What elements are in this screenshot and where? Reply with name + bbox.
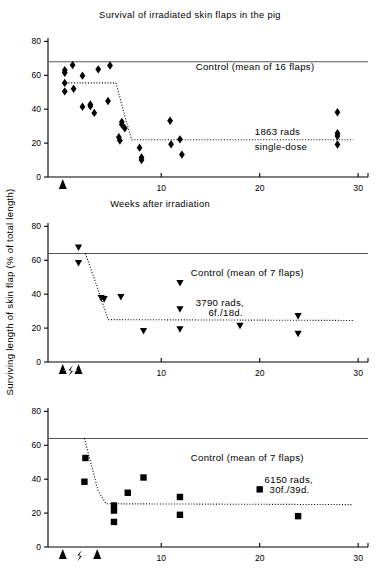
figure-container: Survival of irradiated skin flaps in the… (0, 0, 380, 584)
annotation-label: Control (mean of 7 flaps) (191, 267, 304, 278)
y-axis-tick-label: 20 (31, 138, 41, 148)
page-title: Survival of irradiated skin flaps in the… (99, 10, 281, 20)
data-point-square (81, 479, 87, 485)
y-axis-tick-label: 80 (31, 406, 41, 416)
data-point-square (177, 494, 183, 500)
data-point-square (82, 455, 88, 461)
y-axis-tick-label: 0 (36, 172, 41, 182)
annotation-label: Control (mean of 16 flaps) (196, 61, 315, 72)
data-point-square (177, 512, 183, 518)
annotation-label: single-dose (255, 141, 307, 152)
annotation-label: 6f./18d. (208, 307, 242, 318)
figure-svg: Survival of irradiated skin flaps in the… (0, 0, 380, 584)
y-axis-tick-label: 40 (31, 104, 41, 114)
data-point-square (111, 519, 117, 525)
x-axis-tick-label: 10 (156, 553, 166, 563)
y-axis-tick-label: 40 (31, 289, 41, 299)
data-point-square (125, 490, 131, 496)
y-axis-tick-label: 20 (31, 508, 41, 518)
y-axis-label: Surviving length of skin flap (% of tota… (4, 189, 15, 396)
x-axis-tick-label: 30 (353, 553, 363, 563)
y-axis-tick-label: 0 (36, 357, 41, 367)
figure-background (0, 0, 380, 584)
x-axis-tick-label: 30 (353, 183, 363, 193)
x-axis-tick-label: 10 (156, 183, 166, 193)
y-axis-tick-label: 80 (31, 221, 41, 231)
y-axis-tick-label: 40 (31, 474, 41, 484)
annotation-label: 30f./39d. (270, 484, 310, 495)
y-axis-tick-label: 60 (31, 70, 41, 80)
x-axis-label: Weeks after irradiation (110, 199, 210, 209)
data-point-square (256, 486, 262, 492)
annotation-label: Control (mean of 7 flaps) (191, 452, 304, 463)
x-axis-tick-label: 20 (255, 183, 265, 193)
x-axis-tick-label: 10 (156, 368, 166, 378)
data-point-square (140, 474, 146, 480)
y-axis-tick-label: 60 (31, 255, 41, 265)
annotation-label: 1863 rads (255, 126, 300, 137)
y-axis-tick-label: 0 (36, 542, 41, 552)
x-axis-tick-label: 30 (353, 368, 363, 378)
y-axis-tick-label: 20 (31, 323, 41, 333)
x-axis-tick-label: 20 (255, 368, 265, 378)
y-axis-tick-label: 60 (31, 440, 41, 450)
y-axis-tick-label: 80 (31, 36, 41, 46)
data-point-square (111, 507, 117, 513)
x-axis-tick-label: 20 (255, 553, 265, 563)
data-point-square (295, 513, 301, 519)
